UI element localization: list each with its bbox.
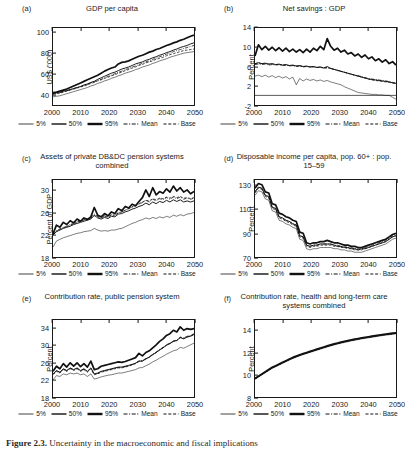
legend-item-5pct: 5% [18, 120, 46, 128]
panel-a-plot: US$ ('000) 40608010020002010202020302040… [52, 27, 195, 106]
x-tick-label: 2020 [101, 260, 117, 269]
x-tick-label: 2050 [187, 400, 203, 409]
y-tick-mark [52, 32, 56, 33]
legend-swatch-thick-icon [87, 121, 103, 127]
x-tick-mark [282, 319, 283, 323]
x-tick-mark [80, 319, 81, 323]
x-tick-mark [339, 319, 340, 323]
legend-swatch-dashdot-icon [325, 411, 341, 417]
legend-item-mean: Mean [325, 120, 360, 128]
x-tick-mark [52, 27, 53, 31]
y-tick-label: 30 [41, 341, 49, 350]
legend-item-95pct: 95% [87, 410, 118, 418]
y-tick-mark [254, 66, 258, 67]
y-tick-label: 110 [239, 205, 251, 214]
legend-swatch-dashed-icon [365, 411, 381, 417]
legend-swatch-thick-icon [289, 271, 305, 277]
legend-item-mean: Mean [325, 410, 360, 418]
legend-item-base: Base [163, 270, 196, 278]
x-tick-label: 2000 [44, 400, 60, 409]
x-tick-mark [52, 179, 53, 183]
figure-caption: Figure 2.3. Uncertainty in the macroecon… [6, 438, 399, 449]
x-tick-label: 2040 [360, 260, 376, 269]
panel-f-legend: 5%50%95%MeanBase [216, 410, 402, 418]
panel-d-plotbox [254, 179, 397, 258]
y-tick-label: 130 [239, 181, 251, 190]
x-tick-label: 2040 [158, 260, 174, 269]
x-tick-mark [282, 27, 283, 31]
y-tick-mark [254, 233, 258, 234]
y-tick-label: 12 [243, 348, 251, 357]
x-tick-label: 2030 [332, 400, 348, 409]
legend-label: Base [383, 270, 398, 278]
y-tick-mark [52, 95, 56, 96]
legend-label: Mean [343, 120, 360, 128]
x-tick-mark [282, 179, 283, 183]
legend-swatch-dashdot-icon [123, 411, 139, 417]
panel-f: (f) Contribution rate, health and long-t… [202, 292, 404, 432]
legend-swatch-medium-icon [253, 271, 269, 277]
legend-label: Base [383, 120, 398, 128]
y-tick-mark [254, 106, 258, 107]
x-tick-mark [166, 27, 167, 31]
legend-label: Mean [141, 270, 158, 278]
caption-text: Uncertainty in the macroeconomic and fis… [49, 438, 257, 448]
legend-label: 5% [36, 410, 46, 418]
legend-label: Base [181, 270, 196, 278]
panel-a-plotbox [52, 27, 195, 106]
x-tick-mark [368, 319, 369, 323]
legend-swatch-thin-icon [220, 411, 236, 417]
legend-swatch-dashed-icon [163, 271, 179, 277]
y-tick-label: 10 [243, 42, 251, 51]
legend-swatch-medium-icon [253, 411, 269, 417]
x-tick-label: 2040 [360, 400, 376, 409]
y-tick-mark [254, 185, 258, 186]
panel-c: (c) Assets of private DB&DC pension syst… [0, 152, 202, 292]
legend-label: Mean [343, 410, 360, 418]
x-tick-label: 2010 [274, 108, 290, 117]
legend-label: Base [181, 410, 196, 418]
legend-swatch-thick-icon [289, 121, 305, 127]
legend-item-50pct: 50% [51, 270, 82, 278]
x-tick-mark [254, 319, 255, 323]
panel-c-title: Assets of private DB&DC pension systems … [28, 152, 196, 170]
legend-item-base: Base [365, 120, 398, 128]
y-tick-mark [52, 258, 56, 259]
panel-e-legend: 5%50%95%MeanBase [14, 410, 200, 418]
y-tick-label: 22 [41, 231, 49, 240]
y-tick-mark [52, 362, 56, 363]
x-tick-mark [109, 319, 110, 323]
panel-b: (b) Net savings : GDP Percent -226101420… [202, 2, 404, 142]
panel-f-title: Contribution rate, health and long-term … [230, 292, 398, 310]
legend-item-5pct: 5% [220, 270, 248, 278]
x-tick-mark [52, 319, 53, 323]
x-tick-mark [311, 27, 312, 31]
x-tick-label: 2030 [130, 260, 146, 269]
panel-b-plot: Percent -2261014200020102020203020402050 [254, 27, 397, 106]
y-tick-mark [254, 330, 258, 331]
legend-label: Base [383, 410, 398, 418]
x-tick-mark [137, 179, 138, 183]
x-tick-label: 2040 [158, 400, 174, 409]
legend-swatch-medium-icon [51, 271, 67, 277]
y-tick-label: 2 [247, 82, 251, 91]
x-tick-label: 2020 [101, 108, 117, 117]
legend-item-50pct: 50% [51, 410, 82, 418]
x-tick-mark [195, 179, 196, 183]
x-tick-mark [195, 27, 196, 31]
legend-swatch-dashed-icon [163, 121, 179, 127]
x-tick-label: 2000 [246, 108, 262, 117]
legend-label: 50% [69, 410, 82, 418]
legend-item-50pct: 50% [51, 120, 82, 128]
x-tick-label: 2020 [303, 260, 319, 269]
legend-swatch-thin-icon [220, 271, 236, 277]
legend-item-95pct: 95% [87, 120, 118, 128]
x-tick-label: 2050 [389, 400, 405, 409]
panel-e: (e) Contribution rate, public pension sy… [0, 292, 202, 432]
panel-a-legend: 5%50%95%MeanBase [14, 120, 200, 128]
x-tick-label: 2050 [389, 260, 405, 269]
y-tick-label: 40 [41, 91, 49, 100]
legend-item-95pct: 95% [289, 270, 320, 278]
y-tick-mark [254, 209, 258, 210]
legend-label: Mean [343, 270, 360, 278]
